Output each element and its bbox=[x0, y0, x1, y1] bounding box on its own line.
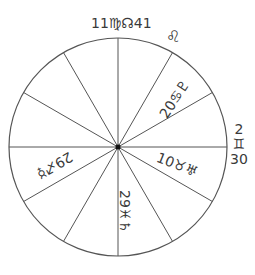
ascendant-label: 2 ♊ 30 bbox=[230, 122, 248, 167]
leo-sign-icon: ♌ bbox=[166, 30, 180, 44]
ascendant-degree: 2 bbox=[234, 122, 243, 137]
center-dot bbox=[116, 145, 121, 150]
house-cusp-line bbox=[64, 53, 119, 147]
astrology-wheel bbox=[0, 0, 255, 275]
house-cusp-line bbox=[24, 93, 118, 148]
midheaven-label: 11♍☊41 bbox=[91, 16, 152, 30]
ascendant-minutes: 30 bbox=[230, 152, 248, 167]
gemini-sign-icon: ♊ bbox=[233, 137, 246, 152]
saturn-position-label: 29♓♄ bbox=[118, 190, 132, 233]
